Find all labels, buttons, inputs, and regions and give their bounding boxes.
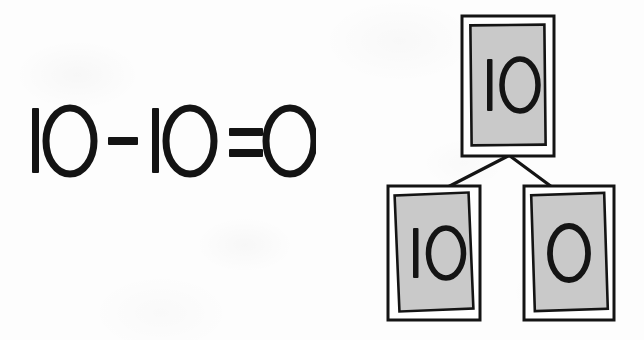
node-whole[interactable]: 10 [462,16,554,156]
digit-one-stroke-second [152,108,159,173]
node-part-left[interactable]: 10 [388,186,480,320]
whole-box-inner-panel [470,25,545,146]
part-right-box-inner-panel [531,193,608,311]
worksheet-page: 10 - 10 = 0 10 [0,0,644,340]
equals-sign-bottom-bar [229,149,263,157]
digit-zero-oval-second [166,108,214,174]
number-bond-drawing: 10 10 0 [370,6,634,328]
minus-sign [108,137,138,145]
node-part-right[interactable]: 0 [524,186,614,320]
digit-one-stroke-first [32,108,39,173]
part-left-digit-one-stroke [413,228,419,278]
part-whole-number-bond: 10 10 0 [370,6,634,328]
equation-drawing: 10 - 10 = 0 [26,100,316,182]
subtraction-equation: 10 - 10 = 0 [26,100,316,182]
equals-sign-top-bar [229,128,263,136]
whole-digit-one-stroke [487,59,493,111]
digit-zero-oval-first [46,108,94,174]
digit-zero-oval-result [266,108,314,174]
